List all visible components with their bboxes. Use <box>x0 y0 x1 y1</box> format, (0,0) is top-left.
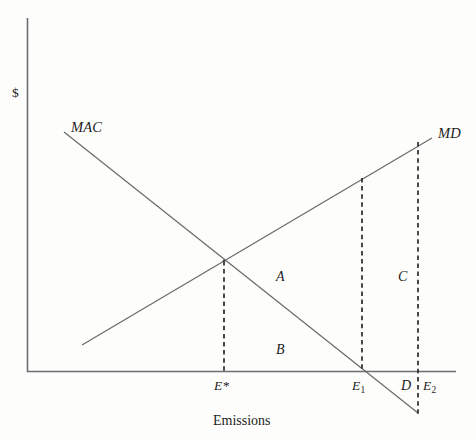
emissions-mac-md-chart: $ MAC MD A B C E* E1 D E2 Emissions <box>0 0 476 441</box>
x-tick-e-one-subscript: 1 <box>361 385 366 395</box>
md-curve-label: MD <box>438 126 461 141</box>
chart-canvas <box>0 0 476 441</box>
region-label-d: D <box>401 379 411 393</box>
x-tick-e-two-base: E <box>423 378 431 393</box>
md-curve-line <box>82 138 432 345</box>
x-tick-label-e-two: E2 <box>423 379 436 393</box>
mac-curve-label: MAC <box>71 120 102 135</box>
x-tick-e-one-base: E <box>352 378 360 393</box>
equilibrium-point-marker <box>223 260 226 263</box>
region-label-b: B <box>276 343 285 357</box>
y-axis-label: $ <box>12 86 19 100</box>
x-tick-e-two-subscript: 2 <box>432 385 437 395</box>
region-label-c: C <box>398 270 407 284</box>
x-tick-label-e-one: E1 <box>352 379 365 393</box>
x-tick-label-e-star: E* <box>214 379 229 393</box>
region-label-a: A <box>276 270 285 284</box>
x-axis-title: Emissions <box>213 414 271 428</box>
